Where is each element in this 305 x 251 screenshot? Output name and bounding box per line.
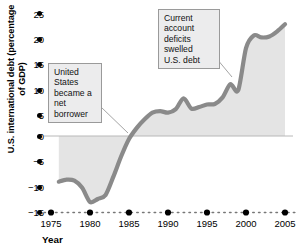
annotation-net-borrower-line-2: became a (54, 88, 97, 98)
x-tick-label-1975: 1975 (31, 218, 71, 229)
x-tick-label-1995: 1995 (187, 218, 227, 229)
x-tick-label-2000: 2000 (226, 218, 266, 229)
leader-line-net-borrower (101, 107, 128, 133)
annotation-current-account: Current account deficits swelled U.S. de… (158, 9, 220, 69)
x-axis-title: Year (42, 234, 63, 245)
chart-figure: U.S. international debt (percentage of G… (0, 0, 305, 251)
x-tick-label-1990: 1990 (148, 218, 188, 229)
chart-plot-area (0, 0, 305, 251)
annotation-current-account-line-3: U.S. debt (164, 55, 215, 65)
annotation-net-borrower-line-1: United States (54, 67, 97, 88)
x-tick-label-2005: 2005 (265, 218, 305, 229)
annotation-net-borrower: United States became a net borrower (48, 63, 102, 123)
x-tick-label-1980: 1980 (70, 218, 110, 229)
x-tick-label-1985: 1985 (109, 218, 149, 229)
annotation-current-account-line-2: deficits swelled (164, 34, 215, 55)
annotation-net-borrower-line-3: net borrower (54, 98, 97, 119)
annotation-current-account-line-1: Current account (164, 13, 215, 34)
